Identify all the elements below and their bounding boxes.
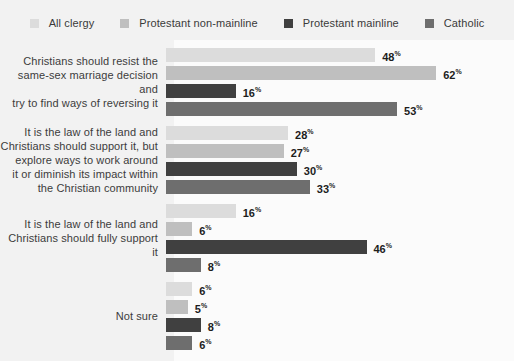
percent-sign: %	[205, 338, 211, 345]
bar-value-label: 5%	[195, 299, 207, 316]
bar[interactable]	[166, 66, 436, 80]
bar[interactable]	[166, 300, 188, 314]
bar[interactable]	[166, 180, 310, 194]
percent-sign: %	[205, 284, 211, 291]
bar-row[interactable]: 8%	[166, 318, 514, 332]
bar[interactable]	[166, 240, 367, 254]
chart-groups: Christians should resist thesame-sex mar…	[0, 40, 514, 361]
bar[interactable]	[166, 144, 284, 158]
bar-value-label: 8%	[208, 257, 220, 274]
bar[interactable]	[166, 162, 297, 176]
bar[interactable]	[166, 48, 375, 62]
legend-swatch-icon	[425, 19, 434, 28]
category-label: It is the law of the land andChristians …	[0, 125, 166, 195]
bar-row[interactable]: 8%	[166, 258, 514, 272]
legend-item-label: Protestant mainline	[303, 17, 399, 29]
bar-value-label: 6%	[199, 335, 211, 352]
legend-item-label: All clergy	[49, 17, 95, 29]
bar-value-label: 30%	[304, 161, 322, 178]
bar-value-number: 33	[317, 182, 329, 194]
bar-row[interactable]: 6%	[166, 282, 514, 296]
bar-row[interactable]: 5%	[166, 300, 514, 314]
legend-item[interactable]: Protestant mainline	[284, 17, 399, 29]
bar[interactable]	[166, 126, 288, 140]
bar-row[interactable]: 27%	[166, 144, 514, 158]
category-label-line: explore ways to work around	[0, 153, 158, 167]
bar[interactable]	[166, 258, 201, 272]
bar-row[interactable]: 16%	[166, 204, 514, 218]
bar-row[interactable]: 46%	[166, 240, 514, 254]
bar-stack: 6%5%8%6%	[166, 282, 514, 350]
category-label: Christians should resist thesame-sex mar…	[0, 54, 166, 110]
legend-item[interactable]: Catholic	[425, 17, 485, 29]
percent-sign: %	[255, 206, 261, 213]
percent-sign: %	[386, 242, 392, 249]
percent-sign: %	[303, 146, 309, 153]
bar-row[interactable]: 48%	[166, 48, 514, 62]
bar-value-label: 53%	[404, 101, 422, 118]
percent-sign: %	[255, 86, 261, 93]
bar[interactable]	[166, 204, 236, 218]
bar-value-number: 53	[404, 104, 416, 116]
percent-sign: %	[329, 182, 335, 189]
bar-value-label: 16%	[243, 83, 261, 100]
bar-value-label: 33%	[317, 179, 335, 196]
bar[interactable]	[166, 222, 192, 236]
bar-row[interactable]: 53%	[166, 102, 514, 116]
bar-value-label: 6%	[199, 281, 211, 298]
category-label-line: Christians should support it, but	[0, 139, 158, 153]
percent-sign: %	[201, 302, 207, 309]
bar-value-label: 6%	[199, 221, 211, 238]
bar-group: Christians should resist thesame-sex mar…	[0, 48, 514, 116]
percent-sign: %	[205, 224, 211, 231]
bar-group: Not sure6%5%8%6%	[0, 282, 514, 350]
bar-value-label: 48%	[382, 47, 400, 64]
category-label-line: the Christian community	[0, 181, 158, 195]
category-label-line: try to find ways of reversing it	[0, 96, 158, 110]
bar-value-label: 28%	[295, 125, 313, 142]
legend-item[interactable]: Protestant non-mainline	[120, 17, 257, 29]
bar-row[interactable]: 6%	[166, 336, 514, 350]
bar-row[interactable]: 33%	[166, 180, 514, 194]
category-label-line: it or diminish its impact within	[0, 167, 158, 181]
category-label-line: It is the law of the land and	[0, 217, 158, 231]
bar-stack: 28%27%30%33%	[166, 126, 514, 194]
bar-value-number: 30	[304, 164, 316, 176]
bar-row[interactable]: 6%	[166, 222, 514, 236]
percent-sign: %	[307, 128, 313, 135]
legend-swatch-icon	[120, 19, 129, 28]
category-label-line: same-sex marriage decision and	[0, 68, 158, 96]
bar-value-label: 46%	[374, 239, 392, 256]
legend-item-label: Catholic	[444, 17, 485, 29]
percent-sign: %	[416, 104, 422, 111]
bar[interactable]	[166, 102, 397, 116]
bar-stack: 16%6%46%8%	[166, 204, 514, 272]
bar[interactable]	[166, 84, 236, 98]
legend-swatch-icon	[284, 19, 293, 28]
bar[interactable]	[166, 282, 192, 296]
bar-stack: 48%62%16%53%	[166, 48, 514, 116]
bar-value-number: 16	[243, 206, 255, 218]
percent-sign: %	[456, 68, 462, 75]
category-label-line: Christians should fully support it	[0, 231, 158, 259]
bar-value-label: 16%	[243, 203, 261, 220]
grouped-bar-chart: All clergyProtestant non-mainlineProtest…	[0, 0, 514, 361]
bar-group: It is the law of the land andChristians …	[0, 204, 514, 272]
legend-item-label: Protestant non-mainline	[139, 17, 257, 29]
bar[interactable]	[166, 318, 201, 332]
percent-sign: %	[394, 50, 400, 57]
bar-row[interactable]: 62%	[166, 66, 514, 80]
chart-legend: All clergyProtestant non-mainlineProtest…	[0, 14, 514, 32]
bar-row[interactable]: 30%	[166, 162, 514, 176]
bar-row[interactable]: 28%	[166, 126, 514, 140]
bar[interactable]	[166, 336, 192, 350]
bar-value-number: 46	[374, 242, 386, 254]
category-label: It is the law of the land andChristians …	[0, 217, 166, 259]
legend-item[interactable]: All clergy	[30, 17, 95, 29]
bar-row[interactable]: 16%	[166, 84, 514, 98]
percent-sign: %	[214, 320, 220, 327]
bar-value-label: 62%	[443, 65, 461, 82]
percent-sign: %	[316, 164, 322, 171]
bar-value-number: 16	[243, 86, 255, 98]
category-label-line: Christians should resist the	[0, 54, 158, 68]
